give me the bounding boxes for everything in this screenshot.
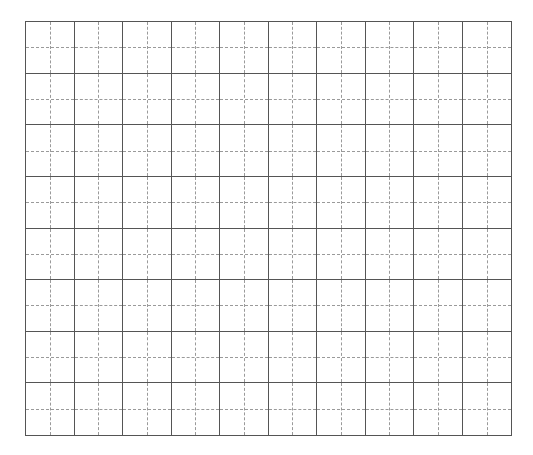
grid-cell [414,125,463,177]
grid-cell [123,74,172,126]
horizontal-guide-line [317,47,365,48]
grid-cell [317,229,366,281]
horizontal-guide-line [463,151,512,152]
horizontal-guide-line [26,409,74,410]
grid-cell [463,280,512,332]
horizontal-guide-line [26,47,74,48]
grid-cell [172,383,221,435]
grid-cell [75,22,124,74]
grid-cell [317,125,366,177]
grid-cell [269,332,318,384]
horizontal-guide-line [269,99,317,100]
horizontal-guide-line [75,99,123,100]
grid-cell [317,332,366,384]
horizontal-guide-line [463,254,512,255]
grid-cell [414,229,463,281]
horizontal-guide-line [172,305,220,306]
grid-cell [26,332,75,384]
horizontal-guide-line [414,305,462,306]
grid-cell [220,280,269,332]
grid-cell [269,383,318,435]
grid-cell [366,74,415,126]
grid-cell [172,74,221,126]
grid-cell [463,332,512,384]
horizontal-guide-line [317,151,365,152]
horizontal-guide-line [463,47,512,48]
horizontal-guide-line [317,357,365,358]
grid-cell [317,280,366,332]
horizontal-guide-line [317,254,365,255]
grid-cell [366,125,415,177]
grid-cell [123,383,172,435]
horizontal-guide-line [317,99,365,100]
horizontal-guide-line [172,357,220,358]
grid-cell [269,74,318,126]
horizontal-guide-line [172,47,220,48]
grid-cell [220,125,269,177]
grid-cell [75,280,124,332]
horizontal-guide-line [366,357,414,358]
writing-grid [25,21,512,436]
horizontal-guide-line [123,99,171,100]
horizontal-guide-line [123,202,171,203]
horizontal-guide-line [220,357,268,358]
horizontal-guide-line [414,99,462,100]
horizontal-guide-line [414,409,462,410]
horizontal-guide-line [220,409,268,410]
grid-cell [463,125,512,177]
horizontal-guide-line [220,305,268,306]
horizontal-guide-line [220,151,268,152]
grid-cell [269,280,318,332]
grid-cell [26,125,75,177]
horizontal-guide-line [366,254,414,255]
horizontal-guide-line [172,409,220,410]
horizontal-guide-line [269,202,317,203]
grid-cell [75,229,124,281]
horizontal-guide-line [26,99,74,100]
horizontal-guide-line [269,305,317,306]
grid-cell [75,177,124,229]
horizontal-guide-line [414,202,462,203]
horizontal-guide-line [317,202,365,203]
grid-cell [172,280,221,332]
horizontal-guide-line [75,409,123,410]
horizontal-guide-line [123,357,171,358]
horizontal-guide-line [26,357,74,358]
horizontal-guide-line [414,47,462,48]
grid-cell [463,22,512,74]
horizontal-guide-line [463,305,512,306]
grid-cell [414,383,463,435]
grid-cell [123,229,172,281]
horizontal-guide-line [75,202,123,203]
horizontal-guide-line [123,254,171,255]
grid-cell [220,332,269,384]
horizontal-guide-line [463,409,512,410]
grid-cell [414,280,463,332]
horizontal-guide-line [269,151,317,152]
grid-cell [317,383,366,435]
horizontal-guide-line [269,409,317,410]
grid-cell [414,74,463,126]
grid-cell [269,229,318,281]
horizontal-guide-line [172,202,220,203]
grid-cell [220,22,269,74]
grid-cell [75,332,124,384]
grid-cell [414,22,463,74]
horizontal-guide-line [366,202,414,203]
horizontal-guide-line [75,254,123,255]
horizontal-guide-line [366,99,414,100]
grid-cell [220,74,269,126]
horizontal-guide-line [463,99,512,100]
horizontal-guide-line [172,151,220,152]
horizontal-guide-line [26,151,74,152]
grid-cell [123,22,172,74]
horizontal-guide-line [26,202,74,203]
grid-cell [26,22,75,74]
grid-cell [463,383,512,435]
grid-cell [123,125,172,177]
grid-cell [26,177,75,229]
grid-cell [220,383,269,435]
grid-cell [172,125,221,177]
grid-cell [414,177,463,229]
horizontal-guide-line [220,47,268,48]
